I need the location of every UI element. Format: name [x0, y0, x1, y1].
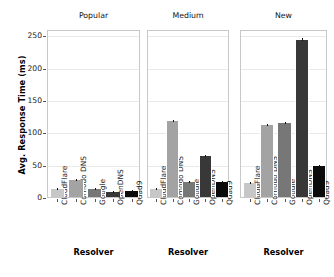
chart-panel-popular: PopularCloudFlareComodo DNSGoogleOpenDNS… — [47, 30, 140, 198]
x-tick-mark — [173, 199, 174, 202]
chart-figure: Avg. Response Time (ms) 050100150200250 … — [0, 0, 334, 277]
x-tick-mark — [57, 199, 58, 202]
chart-panel-new: NewCloudFlareComodo DNSGoogleOpenDNSQuad… — [240, 30, 327, 198]
bar-cloudflare — [50, 189, 65, 197]
plot-area — [48, 31, 139, 197]
bar-quad9 — [215, 182, 228, 197]
error-bar — [205, 155, 206, 157]
x-tick-mark — [95, 199, 96, 202]
error-bar — [267, 124, 268, 126]
error-bar — [250, 182, 251, 184]
y-tick-label: 50 — [2, 162, 42, 170]
panel-title: Popular — [48, 11, 139, 20]
x-axis-label: Resolver — [48, 247, 139, 257]
error-bar — [156, 188, 157, 190]
error-bar — [113, 191, 114, 193]
error-bar — [95, 188, 96, 190]
plot-area — [241, 31, 326, 197]
bar-comodo-dns — [260, 125, 274, 197]
bar-cloudflare — [243, 183, 257, 197]
y-tick-mark — [43, 101, 46, 102]
bar-opendns — [295, 40, 309, 197]
bar-google — [182, 182, 195, 197]
error-bar — [319, 165, 320, 167]
y-axis-label: Avg. Response Time (ms) — [17, 35, 27, 195]
y-tick-mark — [43, 166, 46, 167]
x-tick-mark — [302, 199, 303, 202]
y-tick-label: 0 — [2, 194, 42, 202]
y-tick-label: 200 — [2, 65, 42, 73]
x-axis-label: Resolver — [241, 247, 326, 257]
x-tick-mark — [156, 199, 157, 202]
bar-cloudflare — [149, 189, 162, 197]
x-tick-mark — [319, 199, 320, 202]
chart-panel-medium: MediumCloudFlareComodo DNSGoogleOpenDNSQ… — [147, 30, 229, 198]
y-tick-label: 250 — [2, 32, 42, 40]
bar-comodo-dns — [166, 121, 179, 197]
y-tick-mark — [43, 133, 46, 134]
error-bar — [285, 122, 286, 124]
y-tick-label: 100 — [2, 129, 42, 137]
x-tick-mark — [205, 199, 206, 202]
x-axis-label: Resolver — [148, 247, 228, 257]
x-tick-mark — [113, 199, 114, 202]
plot-area — [148, 31, 228, 197]
error-bar — [132, 190, 133, 192]
x-tick-mark — [267, 199, 268, 202]
y-tick-mark — [43, 69, 46, 70]
error-bar — [189, 181, 190, 183]
x-tick-mark — [222, 199, 223, 202]
bar-google — [87, 189, 102, 197]
error-bar — [57, 188, 58, 190]
bar-quad9 — [312, 166, 326, 197]
x-tick-mark — [189, 199, 190, 202]
bar-google — [277, 123, 291, 197]
error-bar — [173, 120, 174, 122]
error-bar — [76, 179, 77, 181]
x-tick-mark — [250, 199, 251, 202]
error-bar — [302, 38, 303, 41]
panel-title: New — [241, 11, 326, 20]
x-tick-mark — [285, 199, 286, 202]
x-tick-mark — [76, 199, 77, 202]
bar-opendns — [199, 156, 212, 197]
panel-title: Medium — [148, 11, 228, 20]
y-tick-label: 150 — [2, 97, 42, 105]
x-tick-mark — [132, 199, 133, 202]
error-bar — [222, 181, 223, 183]
y-tick-mark — [43, 198, 46, 199]
y-tick-mark — [43, 36, 46, 37]
bar-comodo-dns — [68, 180, 83, 197]
